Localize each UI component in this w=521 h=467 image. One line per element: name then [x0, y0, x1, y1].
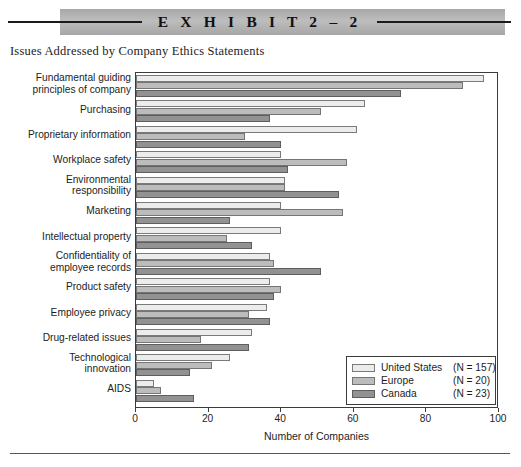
- category-label: Fundamental guiding principles of compan…: [0, 72, 131, 95]
- header-rule-left: [8, 21, 142, 23]
- legend-sample-size: (N = 23): [453, 388, 490, 399]
- legend-item: Europe(N = 20): [352, 374, 490, 387]
- category-label: Drug-related issues: [0, 332, 131, 344]
- bar-group: [136, 329, 497, 351]
- bar-europe: [136, 387, 161, 394]
- bar-us: [136, 354, 230, 361]
- x-tick-mark: [425, 408, 426, 412]
- bar-canada: [136, 141, 281, 148]
- legend-item: United States(N = 157): [352, 361, 490, 374]
- bar-us: [136, 278, 270, 285]
- bar-europe: [136, 209, 343, 216]
- bar-canada: [136, 115, 270, 122]
- bar-canada: [136, 395, 194, 402]
- bar-group: [136, 202, 497, 224]
- bar-europe: [136, 260, 274, 267]
- bar-group: [136, 177, 497, 199]
- bar-us: [136, 151, 281, 158]
- bar-us: [136, 202, 281, 209]
- bar-europe: [136, 108, 321, 115]
- category-label: Proprietary information: [0, 129, 131, 141]
- legend-sample-size: (N = 20): [453, 375, 490, 386]
- legend-swatch-canada: [352, 390, 375, 398]
- chart-legend: United States(N = 157)Europe(N = 20)Cana…: [346, 356, 496, 405]
- bar-canada: [136, 191, 339, 198]
- bar-group: [136, 75, 497, 97]
- bar-group: [136, 253, 497, 275]
- bar-canada: [136, 166, 288, 173]
- bar-canada: [136, 90, 401, 97]
- bar-group: [136, 227, 497, 249]
- category-label: Product safety: [0, 281, 131, 293]
- category-label: AIDS: [0, 383, 131, 395]
- bottom-divider: [10, 453, 510, 454]
- exhibit-header-inner: E X H I B I T 2 – 2: [60, 9, 505, 35]
- category-label: Technological innovation: [0, 352, 131, 375]
- plot-area: United States(N = 157)Europe(N = 20)Cana…: [135, 72, 498, 408]
- bar-canada: [136, 369, 190, 376]
- bar-europe: [136, 336, 201, 343]
- bar-canada: [136, 318, 270, 325]
- chart-subtitle: Issues Addressed by Company Ethics State…: [10, 44, 264, 59]
- bar-europe: [136, 311, 249, 318]
- category-label: Environmental responsibility: [0, 174, 131, 197]
- x-axis-title: Number of Companies: [135, 430, 498, 442]
- bar-us: [136, 227, 281, 234]
- bar-us: [136, 304, 267, 311]
- bar-us: [136, 380, 154, 387]
- bar-us: [136, 329, 252, 336]
- legend-swatch-europe: [352, 377, 375, 385]
- bar-group: [136, 304, 497, 326]
- category-axis-labels: Fundamental guiding principles of compan…: [0, 72, 131, 408]
- x-tick-label: 100: [490, 413, 507, 424]
- category-label: Intellectual property: [0, 231, 131, 243]
- chart-container: Fundamental guiding principles of compan…: [0, 68, 521, 448]
- x-axis: Number of Companies 020406080100: [135, 408, 498, 448]
- category-label: Confidentiality of employee records: [0, 250, 131, 273]
- bar-europe: [136, 235, 227, 242]
- bar-us: [136, 126, 357, 133]
- bar-europe: [136, 184, 285, 191]
- bar-europe: [136, 286, 281, 293]
- legend-sample-size: (N = 157): [453, 362, 496, 373]
- x-tick-mark: [498, 408, 499, 412]
- bar-us: [136, 253, 270, 260]
- x-tick-label: 60: [347, 413, 358, 424]
- bar-us: [136, 75, 484, 82]
- legend-label: Canada: [381, 388, 453, 399]
- legend-label: Europe: [381, 375, 453, 386]
- x-tick-mark: [135, 408, 136, 412]
- legend-item: Canada(N = 23): [352, 387, 490, 400]
- x-tick-mark: [280, 408, 281, 412]
- category-label: Workplace safety: [0, 154, 131, 166]
- bar-group: [136, 278, 497, 300]
- x-tick-label: 20: [202, 413, 213, 424]
- exhibit-title: E X H I B I T 2 – 2: [156, 13, 364, 31]
- bar-group: [136, 100, 497, 122]
- x-tick-label: 0: [132, 413, 138, 424]
- bar-canada: [136, 344, 249, 351]
- exhibit-header-band: E X H I B I T 2 – 2: [60, 9, 505, 35]
- x-tick-mark: [208, 408, 209, 412]
- bar-canada: [136, 242, 252, 249]
- bar-us: [136, 177, 285, 184]
- x-tick-label: 40: [275, 413, 286, 424]
- bar-europe: [136, 82, 463, 89]
- category-label: Marketing: [0, 205, 131, 217]
- x-tick-label: 80: [420, 413, 431, 424]
- bar-europe: [136, 362, 212, 369]
- bar-group: [136, 151, 497, 173]
- category-label: Purchasing: [0, 104, 131, 116]
- header-rule-right: [377, 21, 511, 23]
- category-label: Employee privacy: [0, 307, 131, 319]
- bar-us: [136, 100, 365, 107]
- bar-canada: [136, 217, 230, 224]
- bar-europe: [136, 159, 347, 166]
- legend-swatch-us: [352, 364, 375, 372]
- bar-canada: [136, 268, 321, 275]
- x-tick-mark: [353, 408, 354, 412]
- bar-europe: [136, 133, 245, 140]
- legend-label: United States: [381, 362, 453, 373]
- bar-canada: [136, 293, 274, 300]
- bar-group: [136, 126, 497, 148]
